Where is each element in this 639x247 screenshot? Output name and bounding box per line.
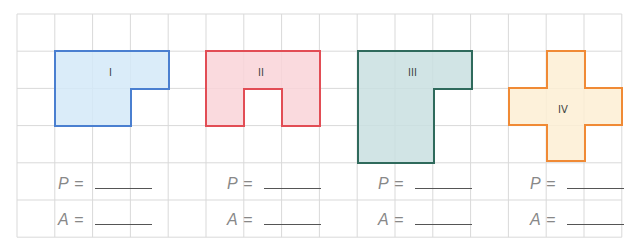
- area-var: A: [227, 211, 238, 228]
- perimeter-answer-iv: P =: [530, 175, 624, 193]
- shape-i: [55, 51, 169, 126]
- equals-sign: =: [243, 211, 253, 228]
- equals-sign: =: [74, 211, 84, 228]
- answer-blank[interactable]: [415, 223, 472, 225]
- equals-sign: =: [394, 211, 404, 228]
- shape-label-iv: IV: [558, 104, 568, 115]
- area-answer-iii: A =: [378, 211, 472, 229]
- equals-sign: =: [546, 211, 556, 228]
- grid-paper: [0, 0, 639, 247]
- area-var: A: [378, 211, 389, 228]
- answer-blank[interactable]: [264, 223, 321, 225]
- equals-sign: =: [243, 175, 253, 192]
- perimeter-answer-ii: P =: [227, 175, 321, 193]
- equals-sign: =: [546, 175, 556, 192]
- perimeter-var: P: [58, 175, 69, 192]
- answer-blank[interactable]: [567, 223, 624, 225]
- shape-ii: [206, 51, 320, 126]
- equals-sign: =: [394, 175, 404, 192]
- area-answer-ii: A =: [227, 211, 321, 229]
- answer-blank[interactable]: [264, 187, 321, 189]
- perimeter-answer-iii: P =: [378, 175, 472, 193]
- shape-label-iii: III: [408, 67, 417, 78]
- area-var: A: [58, 211, 69, 228]
- area-var: A: [530, 211, 541, 228]
- answer-blank[interactable]: [415, 187, 472, 189]
- perimeter-answer-i: P =: [58, 175, 152, 193]
- area-answer-i: A =: [58, 211, 152, 229]
- perimeter-var: P: [530, 175, 541, 192]
- equals-sign: =: [74, 175, 84, 192]
- area-answer-iv: A =: [530, 211, 624, 229]
- shape-label-ii: II: [258, 67, 264, 78]
- shape-label-i: I: [109, 67, 112, 78]
- answer-blank[interactable]: [95, 223, 152, 225]
- answer-blank[interactable]: [567, 187, 624, 189]
- perimeter-var: P: [227, 175, 238, 192]
- answer-blank[interactable]: [95, 187, 152, 189]
- perimeter-var: P: [378, 175, 389, 192]
